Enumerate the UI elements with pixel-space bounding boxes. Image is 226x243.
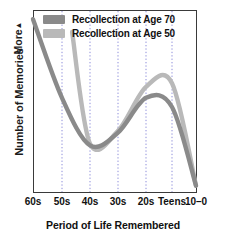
legend-swatch-age70 xyxy=(43,15,65,24)
chart-figure: More▲ Number of Memories Recollection at… xyxy=(0,0,226,243)
legend: Recollection at Age 70 Recollection at A… xyxy=(43,14,175,39)
up-arrow-icon: ▲ xyxy=(14,22,23,30)
x-tick-label: 40s xyxy=(82,196,99,207)
x-tick-label: 50s xyxy=(54,196,71,207)
x-tick-label: 10–0 xyxy=(185,196,207,207)
x-tick-label: 20s xyxy=(138,196,155,207)
x-tick-label: 30s xyxy=(110,196,127,207)
x-axis-ticks: 60s50s40s30s20sTeens10–0 xyxy=(0,196,226,212)
x-tick-label: Teens xyxy=(158,196,186,207)
legend-swatch-age50 xyxy=(43,29,65,38)
legend-item-age70: Recollection at Age 70 xyxy=(43,14,175,25)
x-tick-label: 60s xyxy=(25,196,42,207)
legend-label-age70: Recollection at Age 70 xyxy=(72,14,175,25)
legend-label-age50: Recollection at Age 50 xyxy=(72,28,175,39)
y-axis-title: Number of Memories xyxy=(13,37,25,167)
legend-item-age50: Recollection at Age 50 xyxy=(43,28,175,39)
x-axis-title: Period of Life Remembered xyxy=(0,219,226,231)
